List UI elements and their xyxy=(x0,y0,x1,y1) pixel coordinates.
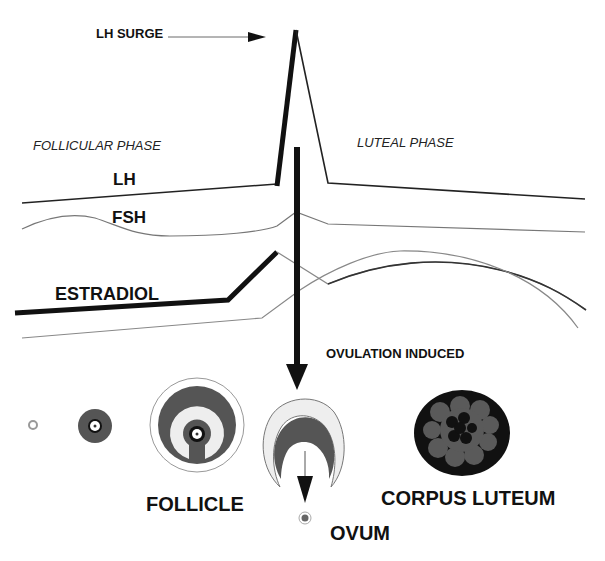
follicle-label: FOLLICLE xyxy=(146,493,244,516)
lh-surge-label: LH SURGE xyxy=(96,26,163,41)
ovum-label: OVUM xyxy=(330,522,390,545)
corpus-luteum-icon xyxy=(414,390,510,476)
lh-label: LH xyxy=(113,170,136,190)
antral-follicle-icon xyxy=(150,378,244,472)
ruptured-follicle-icon xyxy=(261,399,349,503)
ovum-icon xyxy=(299,512,311,524)
fsh-curve xyxy=(22,212,585,236)
lh-surge-arrow xyxy=(168,32,266,42)
corpus-luteum-label: CORPUS LUTEUM xyxy=(381,487,555,510)
ovulation-arrow xyxy=(286,147,308,390)
estradiol-label: ESTRADIOL xyxy=(55,284,159,305)
lh-curve xyxy=(22,30,585,203)
fsh-label: FSH xyxy=(112,208,146,228)
follicular-phase-label: FOLLICULAR PHASE xyxy=(33,138,161,153)
menstrual-cycle-diagram xyxy=(0,0,605,561)
ovulation-induced-label: OVULATION INDUCED xyxy=(326,346,464,361)
primordial-follicle-icon xyxy=(29,421,37,429)
primary-follicle-icon xyxy=(78,409,112,443)
luteal-phase-label: LUTEAL PHASE xyxy=(357,135,454,150)
